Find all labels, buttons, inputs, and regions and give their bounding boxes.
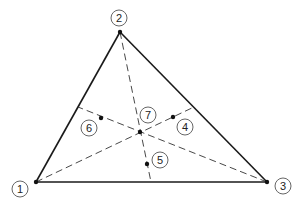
- triangle-edges: [36, 32, 267, 182]
- median-from-1: [36, 107, 194, 182]
- vertex-3-dot: [265, 180, 269, 184]
- label-5-text: 5: [157, 154, 163, 166]
- label-4: 4: [177, 119, 193, 135]
- node-4-dot: [171, 115, 175, 119]
- vertex-2-dot: [118, 30, 122, 34]
- label-3-text: 3: [280, 180, 286, 192]
- label-2-text: 2: [116, 12, 122, 24]
- label-2: 2: [111, 10, 127, 26]
- label-7-text: 7: [145, 109, 151, 121]
- vertex-1-dot: [34, 180, 38, 184]
- node-6-dot: [99, 116, 103, 120]
- node-5-dot: [145, 162, 149, 166]
- label-7: 7: [140, 107, 156, 123]
- label-5: 5: [152, 152, 168, 168]
- node-7-dot: [138, 130, 142, 134]
- node-labels: 1 2 3 4 5 6 7: [12, 10, 291, 197]
- label-4-text: 4: [182, 121, 188, 133]
- label-1-text: 1: [17, 183, 23, 195]
- label-6: 6: [81, 120, 97, 136]
- label-3: 3: [275, 178, 291, 194]
- node-dots: [34, 30, 269, 184]
- label-1: 1: [12, 181, 28, 197]
- triangle-diagram: 1 2 3 4 5 6 7: [0, 0, 302, 207]
- medians: [36, 32, 267, 182]
- edge-2-3: [120, 32, 267, 182]
- label-6-text: 6: [86, 122, 92, 134]
